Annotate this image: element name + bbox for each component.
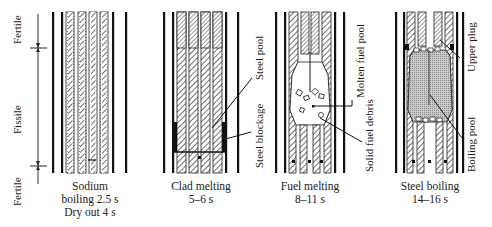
caption-clad-melting: Clad melting 5–6 s — [158, 180, 244, 206]
caption-fuel-melting: Fuel melting 8–11 s — [270, 180, 350, 206]
caption-sodium-boiling: Sodium boiling 2.5 s Dry out 4 s — [50, 180, 130, 219]
annotation-solid-fuel-debris: Solid fuel debris — [364, 99, 375, 172]
annotation-boiling-pool: Boiling pool — [466, 117, 477, 172]
caption-line: 5–6 s — [158, 193, 244, 206]
caption-line: 14–16 s — [390, 193, 470, 206]
zone-label-fissile: Fissile — [12, 105, 23, 134]
caption-steel-boiling: Steel boiling 14–16 s — [390, 180, 470, 206]
caption-line: Sodium — [50, 180, 130, 193]
caption-line: Clad melting — [158, 180, 244, 193]
panel-sodium-boiling — [52, 12, 127, 173]
panel-clad-melting — [163, 12, 252, 173]
panel-steel-boiling — [395, 12, 464, 173]
annotation-molten-fuel-pool: Molten fuel pool — [355, 24, 366, 98]
caption-line: Dry out 4 s — [50, 206, 130, 219]
annotation-steel-blockage: Steel blockage — [254, 104, 265, 168]
caption-line: Fuel melting — [270, 180, 350, 193]
annotation-steel-pool: Steel pool — [254, 36, 265, 80]
panel-fuel-melting — [275, 12, 362, 173]
caption-line: Steel boiling — [390, 180, 470, 193]
zone-axis — [30, 14, 47, 184]
annotation-upper-plug: Upper plug — [466, 22, 477, 72]
zone-label-fertile-bottom: Fertile — [12, 177, 23, 206]
zone-label-fertile-top: Fertile — [12, 15, 23, 44]
caption-line: boiling 2.5 s — [50, 193, 130, 206]
caption-line: 8–11 s — [270, 193, 350, 206]
